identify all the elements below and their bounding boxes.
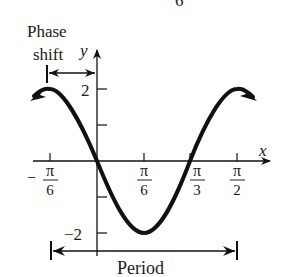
x-tick-label-pi-2: π 2 xyxy=(230,162,245,198)
svg-text:π: π xyxy=(140,162,148,179)
x-tick-label-pi-6: π 6 xyxy=(137,162,152,198)
svg-text:−: − xyxy=(27,169,36,186)
x-tick-label-neg-pi-6: − π 6 xyxy=(27,162,58,198)
sinusoid-diagram: 6 Phase shift y x 2 −2 − π 6 π 6 π 3 π xyxy=(0,0,283,277)
svg-text:3: 3 xyxy=(193,182,201,198)
phase-label-line2: shift xyxy=(33,45,64,64)
svg-text:π: π xyxy=(46,162,54,179)
top-fragment-text: 6 xyxy=(175,0,184,10)
svg-text:π: π xyxy=(233,162,241,179)
y-tick-label-neg2: −2 xyxy=(64,225,82,244)
x-ticks xyxy=(50,153,237,161)
y-tick-label-2: 2 xyxy=(81,81,90,100)
x-tick-label-pi-3: π 3 xyxy=(190,162,205,198)
svg-text:2: 2 xyxy=(233,182,241,198)
y-axis-label: y xyxy=(78,41,88,60)
svg-text:6: 6 xyxy=(140,182,148,198)
svg-text:6: 6 xyxy=(46,182,54,198)
phase-label-line1: Phase xyxy=(27,22,67,41)
x-axis-label: x xyxy=(258,141,267,160)
period-label: Period xyxy=(117,258,164,277)
svg-text:π: π xyxy=(193,162,201,179)
